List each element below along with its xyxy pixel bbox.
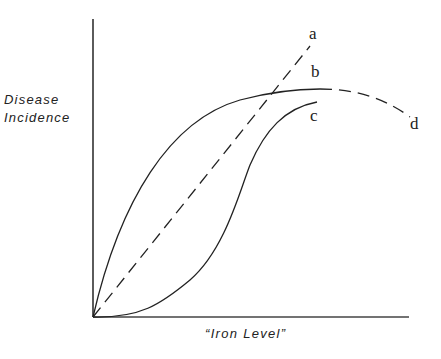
diagram-svg xyxy=(0,0,441,359)
curve-label-b: b xyxy=(311,62,320,82)
curve-b xyxy=(93,89,320,317)
x-axis-label: “Iron Level” xyxy=(205,326,286,341)
curve-label-a: a xyxy=(309,24,317,44)
curve-d xyxy=(320,89,410,117)
y-axis-label: Disease Incidence xyxy=(4,91,70,127)
y-axis-label-line1: Disease xyxy=(4,91,70,109)
curve-a xyxy=(93,46,310,317)
curve-label-c: c xyxy=(310,106,318,126)
y-axis-label-line2: Incidence xyxy=(4,109,70,127)
curve-c xyxy=(93,102,317,317)
diagram-canvas: Disease Incidence “Iron Level” a b c d xyxy=(0,0,441,359)
curve-label-d: d xyxy=(410,114,419,134)
